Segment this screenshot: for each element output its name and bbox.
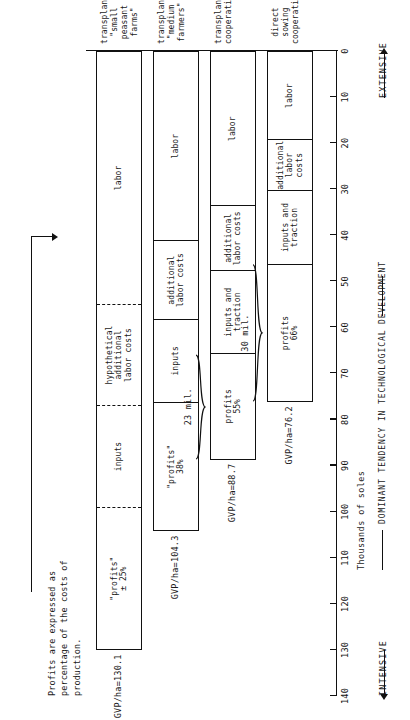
bar-segment[interactable]: profits66% <box>268 265 312 401</box>
extensive-arrow-line <box>384 52 385 98</box>
axis-tick-label: 10 <box>340 92 350 103</box>
brace-callout: 30 mil. <box>252 264 263 402</box>
bar-segment-label: labor <box>285 83 294 108</box>
bar-segment[interactable]: hypothetical additional labor costs <box>97 305 141 407</box>
stacked-bar[interactable]: "profits"38%inputsadditional labor costs… <box>153 51 199 532</box>
axis-tick <box>330 234 337 235</box>
gvp-label: GVP/ha=104.3 <box>170 536 180 720</box>
bar-segment-text: additional labor costs <box>167 253 186 307</box>
stacked-bar[interactable]: "profits"± 25%inputshypothetical additio… <box>96 51 142 650</box>
bar-segment[interactable]: additional labor costs <box>211 206 255 271</box>
gvp-label: GVP/ha=130.1 <box>113 654 123 720</box>
bar-segment[interactable]: inputs <box>97 406 141 508</box>
intensive-arrow-head <box>380 694 388 700</box>
bar-segment-label: inputs and traction <box>281 203 300 252</box>
bar-segment-label: hypothetical additional labor costs <box>105 326 133 385</box>
stacked-bar[interactable]: profits55%inputs and tractionadditional … <box>210 51 256 460</box>
bar-segment[interactable]: inputs and traction <box>268 191 312 265</box>
axis-tick-label: 130 <box>340 642 350 658</box>
axis-tick-label: 110 <box>340 550 350 566</box>
axis-tick <box>330 50 337 51</box>
bar-segment-label: inputs <box>171 346 180 376</box>
brace-label: 23 mil. <box>183 388 193 425</box>
value-axis-title: Thousands of soles <box>356 471 366 570</box>
intensive-label: INTENSIVE <box>378 640 388 696</box>
axis-tick <box>330 511 337 512</box>
axis-tick <box>330 280 337 281</box>
bar-segment[interactable]: additional labor costs <box>154 241 198 320</box>
bar-segment-label: profits <box>281 316 290 350</box>
bar-segment-text: labor <box>285 83 294 108</box>
bar-segment[interactable]: additional labor costs <box>268 140 312 191</box>
axis-tick-label: 40 <box>340 230 350 241</box>
bar-segment-text: inputs <box>114 442 123 472</box>
axis-tick-label: 30 <box>340 184 350 195</box>
bar-segment[interactable]: "profits"± 25% <box>97 508 141 650</box>
bar-segment-text: additional labor costs <box>276 140 304 190</box>
axis-tick-label: 0 <box>340 48 350 53</box>
gvp-label: GVP/ha=88.7 <box>227 464 237 720</box>
note-leader-vertical <box>31 236 53 237</box>
bar-segment-text: additional labor costs <box>224 211 243 265</box>
axis-tick <box>330 188 337 189</box>
axis-tick <box>330 418 337 419</box>
axis-tick-label: 120 <box>340 596 350 612</box>
bar-segment-label: additional labor costs <box>276 140 304 190</box>
bar-segment-text: profits66% <box>281 316 299 350</box>
axis-tick <box>330 464 337 465</box>
bar-segment-text: labor <box>171 134 180 159</box>
axis-tick <box>330 142 337 143</box>
bar-segment-label: additional labor costs <box>167 253 186 307</box>
axis-tick-label: 100 <box>340 504 350 520</box>
chart-canvas: Profits are expressed as percentage of t… <box>0 0 410 720</box>
note-leader-horizontal <box>31 236 32 592</box>
bar-segment-text: labor <box>114 166 123 191</box>
bar-segment-label: "profits" <box>167 445 176 489</box>
gvp-label: GVP/ha=76.2 <box>284 406 294 720</box>
bar-segment[interactable]: labor <box>211 52 255 206</box>
bar-segment[interactable]: labor <box>154 52 198 241</box>
axis-tick-label: 70 <box>340 368 350 379</box>
category-label: transplanting cooperatives <box>214 0 234 44</box>
axis-tick <box>330 96 337 97</box>
category-label: transplanting "medium farmers" <box>157 0 187 44</box>
bar-segment-text: labor <box>228 116 237 141</box>
bar-segment-label: labor <box>171 134 180 159</box>
bar-segment[interactable]: profits55% <box>211 354 255 459</box>
brace-label: 30 mil. <box>240 314 250 351</box>
bar-segment-percent: 38% <box>176 445 185 489</box>
category-label: transplanting "small peasant farms" <box>100 0 140 44</box>
axis-tick <box>330 603 337 604</box>
brace-shape <box>252 264 263 402</box>
bar-segment-label: profits <box>224 389 233 423</box>
extensive-arrow-head <box>380 48 388 54</box>
intensive-arrow-line <box>384 650 385 696</box>
bar-segment[interactable]: labor <box>97 52 141 305</box>
bar-segment-label: additional labor costs <box>224 211 243 265</box>
axis-tick <box>330 557 337 558</box>
axis-tick-label: 80 <box>340 414 350 425</box>
category-label: direct sowing cooperatives <box>271 0 301 44</box>
axis-tick <box>330 326 337 327</box>
bar-segment-text: profits55% <box>224 389 242 423</box>
bar-segment-label: inputs <box>114 442 123 472</box>
bar-segment-label: "profits" <box>110 556 119 600</box>
bar-segment-percent: 55% <box>233 389 242 423</box>
bar-segment-label: labor <box>228 116 237 141</box>
axis-tick-label: 140 <box>340 688 350 704</box>
axis-tick-label: 90 <box>340 460 350 471</box>
tendency-rule-left <box>382 530 383 570</box>
note-leader-arrowhead <box>52 233 58 241</box>
bar-segment-text: "profits"± 25% <box>110 556 128 600</box>
bar-segment-text: inputs <box>171 346 180 376</box>
brace-shape <box>195 354 206 460</box>
brace-callout: 23 mil. <box>195 354 206 460</box>
bar-segment-percent: 66% <box>290 316 299 350</box>
axis-tick-label: 20 <box>340 138 350 149</box>
stacked-bar[interactable]: profits66%inputs and tractionadditional … <box>267 51 313 402</box>
profits-note: Profits are expressed as percentage of t… <box>46 560 83 696</box>
bar-segment-text: hypothetical additional labor costs <box>105 326 133 385</box>
axis-tick-label: 50 <box>340 276 350 287</box>
axis-tick <box>330 695 337 696</box>
bar-segment[interactable]: labor <box>268 52 312 140</box>
